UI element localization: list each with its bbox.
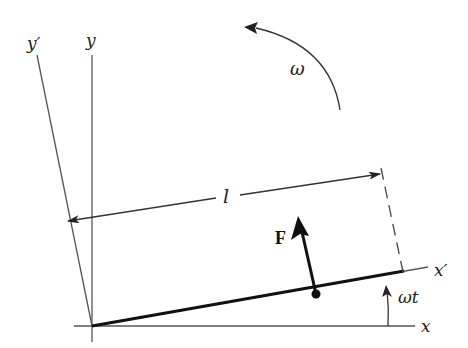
- y-prime-axis: [37, 55, 92, 326]
- application-point: [312, 290, 321, 299]
- y-label: y: [85, 30, 96, 50]
- rod: [92, 271, 404, 326]
- rotation-arc-arrowhead: [244, 22, 258, 34]
- force-arrow-head: [291, 216, 309, 240]
- dimension-line-left: [68, 198, 216, 221]
- dimension-line-right: [240, 174, 380, 195]
- force-label: F: [275, 228, 286, 248]
- angle-arc: [387, 290, 388, 326]
- omega-label: ω: [290, 58, 305, 79]
- length-label: l: [223, 185, 229, 207]
- rotating-frame-diagram: l F ωt ω y′ y x′ x: [0, 0, 468, 348]
- dashed-perpendicular: [381, 168, 403, 272]
- omega-t-label: ωt: [398, 287, 419, 307]
- force-arrow-shaft: [302, 232, 316, 294]
- x-label: x: [421, 316, 431, 336]
- x-prime-label: x′: [434, 260, 448, 280]
- y-prime-label: y′: [26, 33, 41, 53]
